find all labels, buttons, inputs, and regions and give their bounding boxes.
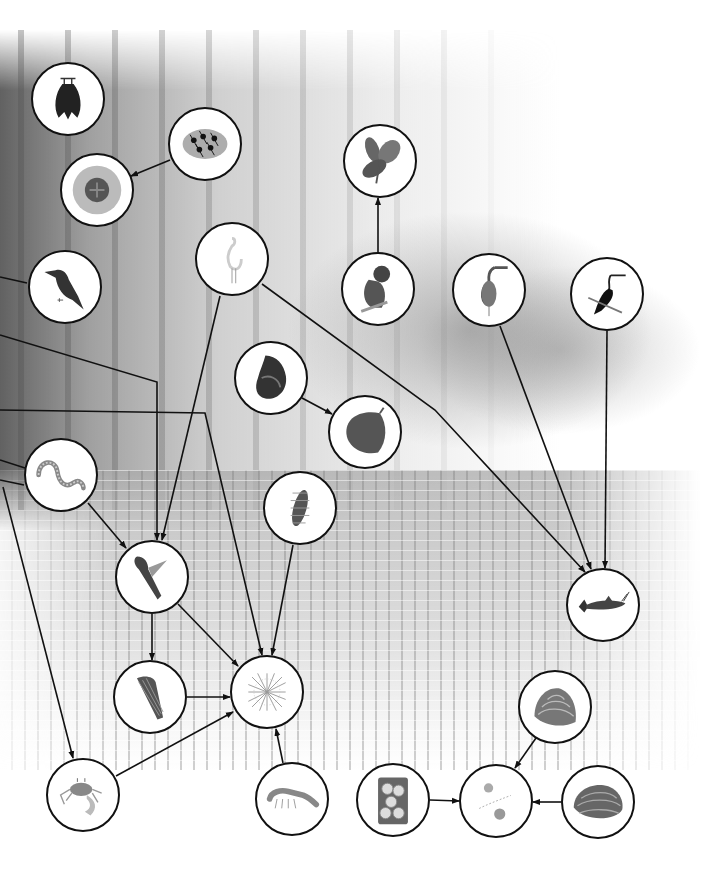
bat-icon xyxy=(40,71,96,127)
egret-icon xyxy=(204,231,260,287)
detritus-icon xyxy=(239,664,295,720)
organism-node-cone-shell: Mud creeper snail xyxy=(113,660,187,734)
mudskipper-icon xyxy=(124,549,180,605)
shrimp-icon xyxy=(264,771,320,827)
arrow-worm-to-mudskipper xyxy=(88,503,126,548)
nest-icon xyxy=(69,162,125,218)
arrow-ants-to-nest xyxy=(131,160,170,176)
arrow-offscreen-left-c-to-crab xyxy=(3,487,73,758)
monkey-icon xyxy=(350,261,406,317)
arrow-larva-to-detritus xyxy=(272,545,293,655)
leaf-litter-icon xyxy=(337,404,393,460)
worm-icon xyxy=(33,447,89,503)
organism-node-clam-top: Clam xyxy=(518,670,592,744)
organism-node-oyster: Oysters xyxy=(356,763,430,837)
organism-node-detritus: Detritus xyxy=(230,655,304,729)
organism-node-shrimp: Shrimp xyxy=(255,762,329,836)
crab-icon xyxy=(55,767,111,823)
heron-icon xyxy=(461,262,517,318)
catfish-icon xyxy=(575,577,631,633)
organism-node-kingfisher: Kingfisher xyxy=(28,250,102,324)
clam-right-icon xyxy=(570,774,626,830)
organism-node-crab: Fiddler crab xyxy=(46,758,120,832)
clam-top-icon xyxy=(527,679,583,735)
organism-node-bat: Fruit bat xyxy=(31,62,105,136)
arrow-clam-top-to-plankton xyxy=(515,738,536,768)
arrow-shrimp-to-detritus xyxy=(276,729,283,763)
cone-shell-icon xyxy=(122,669,178,725)
organism-node-snail: Mangrove snail xyxy=(234,341,308,415)
food-web-scene: Fruit batWeaver antsAnt nestKingfisherEg… xyxy=(0,0,706,873)
arrow-oyster-to-plankton xyxy=(430,800,459,801)
arrow-darter-to-catfish xyxy=(605,331,607,568)
organism-node-worm: Polychaete worm xyxy=(24,438,98,512)
organism-node-leaves: Mangrove leaves xyxy=(343,124,417,198)
leaves-icon xyxy=(352,133,408,189)
arrow-mudskipper-to-detritus xyxy=(178,604,238,666)
oyster-icon xyxy=(365,772,421,828)
organism-node-mudskipper: Mudskipper xyxy=(115,540,189,614)
organism-node-nest: Ant nest xyxy=(60,153,134,227)
organism-node-egret: Egret xyxy=(195,222,269,296)
arrow-offscreen-left-a-to-mudskipper xyxy=(0,335,157,540)
organism-node-leaf-litter: Leaf litter xyxy=(328,395,402,469)
arrow-egret-to-mudskipper xyxy=(162,296,220,540)
darter-icon xyxy=(579,266,635,322)
organism-node-catfish: Catfish xyxy=(566,568,640,642)
arrow-heron-to-catfish xyxy=(500,326,591,569)
organism-node-heron: Heron xyxy=(452,253,526,327)
snail-icon xyxy=(243,350,299,406)
organism-node-monkey: Proboscis monkey xyxy=(341,252,415,326)
connector-line xyxy=(0,277,27,283)
ants-icon xyxy=(177,116,233,172)
organism-node-larva: Insect larva xyxy=(263,471,337,545)
connector-line xyxy=(0,460,25,468)
organism-node-darter: Darter xyxy=(570,257,644,331)
connector-line xyxy=(0,480,24,485)
organism-node-clam-right: Cockle xyxy=(561,765,635,839)
larva-icon xyxy=(272,480,328,536)
organism-node-ants: Weaver ants xyxy=(168,107,242,181)
kingfisher-icon xyxy=(37,259,93,315)
arrow-snail-to-leaf-litter xyxy=(302,398,332,414)
plankton-icon xyxy=(468,773,524,829)
organism-node-plankton: Plankton xyxy=(459,764,533,838)
